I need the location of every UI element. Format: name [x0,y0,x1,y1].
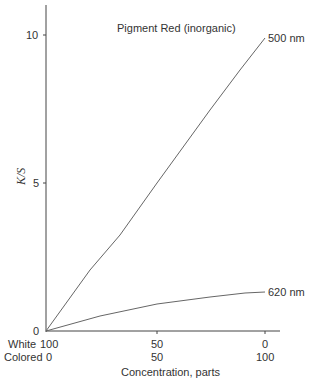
chart-canvas [0,0,312,385]
x-axis-label: Concentration, parts [121,366,220,378]
y-tick-label-10: 10 [26,29,38,41]
chart-title: Pigment Red (inorganic) [117,22,236,34]
x-row-colored-tick-0: 0 [46,351,52,363]
x-row-white-tick-2: 0 [262,338,268,350]
x-row-white-tick-0: 100 [40,338,58,350]
series-620nm-line [46,292,265,331]
y-tick-label-5: 5 [33,177,39,189]
y-axis-label: K/S [14,168,29,185]
legend-500nm: 500 nm [268,32,305,44]
x-row-colored-tick-2: 100 [256,351,274,363]
y-tick-label-0: 0 [33,325,39,337]
x-row-white-tick-1: 50 [151,338,163,350]
x-row-colored-name: Colored [4,351,43,363]
series-500nm-line [46,38,265,331]
x-row-colored-tick-1: 50 [151,351,163,363]
legend-620nm: 620 nm [268,286,305,298]
x-row-white-name: White [8,338,36,350]
